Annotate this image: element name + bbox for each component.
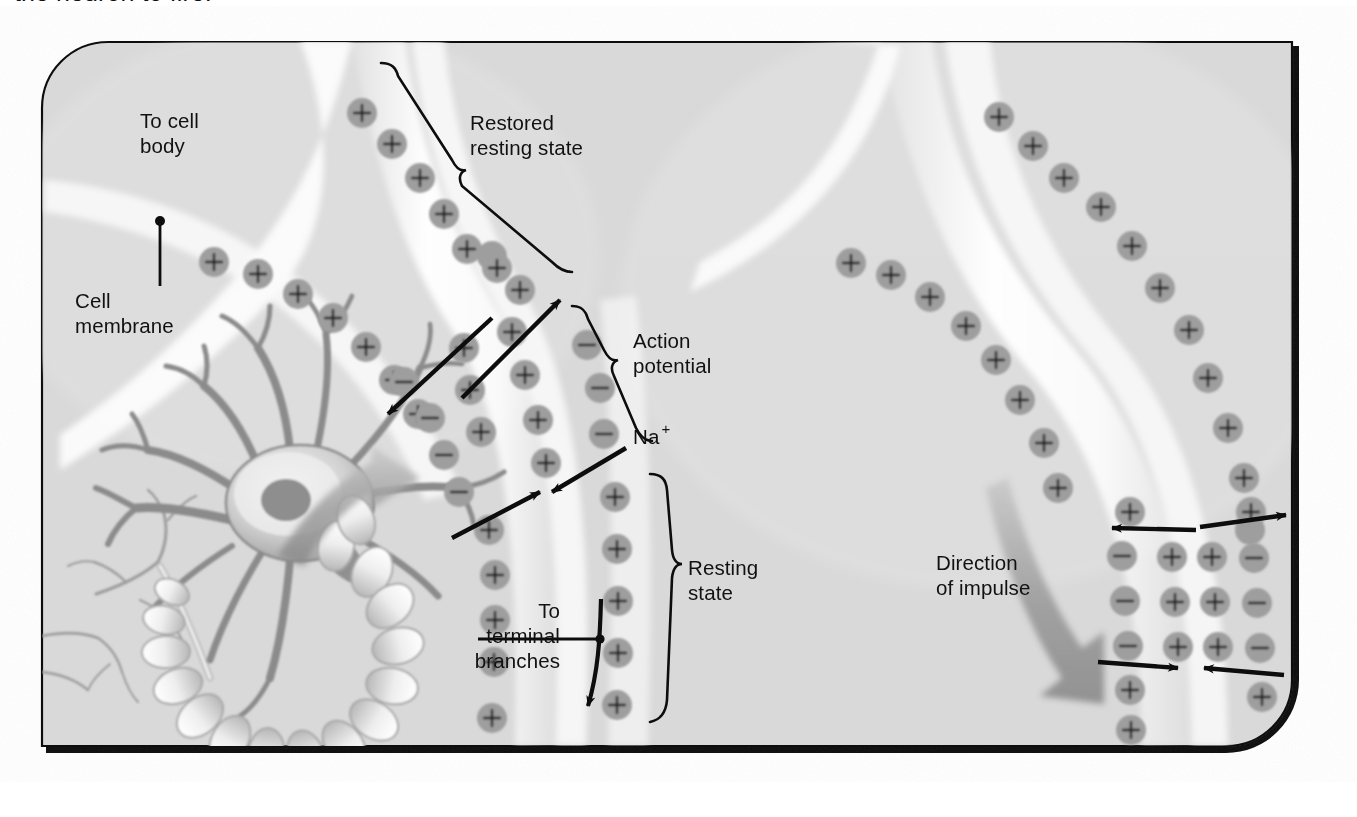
label-direction-of-impulse: Direction of impulse [936,550,1030,600]
label-na-text: Na [633,425,659,448]
label-action-potential: Action potential [633,328,711,378]
figure-stage: To cell body Cell membrane Restored rest… [0,0,1357,817]
label-to-terminal-branches: To terminal branches [390,598,560,673]
label-na-superscript: + [659,420,670,437]
arrow-right-out-left [1112,528,1196,530]
label-resting-state: Resting state [688,555,758,605]
neuron-action-potential-diagram [0,0,1357,817]
label-cell-membrane: Cell membrane [75,288,174,338]
label-na-plus: Na+ [633,424,670,449]
label-restored-resting-state: Restored resting state [470,110,583,160]
label-to-cell-body: To cell body [140,108,199,158]
figure-page: the neuron to fire. [0,0,1357,817]
